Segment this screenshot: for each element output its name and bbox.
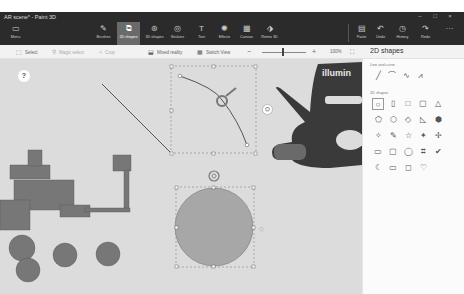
line-tool-icon[interactable]: ╱ (372, 70, 384, 82)
rounded-rect-shape-icon[interactable]: ▯ (387, 98, 399, 110)
magic-select-icon: ⚲ (52, 49, 56, 55)
hexagon-shape-icon[interactable]: ⬡ (387, 114, 399, 126)
select-button[interactable]: ⬚Select (16, 47, 38, 57)
right-triangle-shape-icon[interactable]: ◺ (417, 114, 429, 126)
diamond-shape-icon[interactable]: ◇ (402, 114, 414, 126)
fit-view-button[interactable]: ⛶ (350, 47, 357, 57)
wave-curve-tool-icon[interactable]: ∿ (400, 70, 412, 82)
zoom-level: 100% (330, 47, 342, 57)
zoom-slider-thumb[interactable] (282, 48, 284, 56)
tool-2d-shapes[interactable]: ⧉ 2D shapes (117, 22, 140, 45)
lines-section-label: Line and curve (370, 63, 395, 67)
canvas-drawing: illumin (0, 59, 362, 294)
tool-brushes[interactable]: ✎ Brushes (92, 22, 115, 45)
circle-shape-icon[interactable]: ○ (372, 98, 384, 110)
burst-shape-icon[interactable]: ✦ (417, 130, 429, 142)
2d-shapes-icon: ⧉ (117, 22, 140, 35)
history-icon: ◷ (391, 22, 414, 35)
heart-shape-icon[interactable]: ♡ (417, 162, 429, 174)
square-shape-icon[interactable]: □ (402, 98, 414, 110)
curve-tool-icon[interactable]: ⌒ (386, 70, 398, 82)
brush-icon: ✎ (92, 22, 115, 35)
triangle-shape-icon[interactable]: △ (432, 98, 444, 110)
3d-view-toggle-icon-faded[interactable]: ⛭ (259, 226, 264, 233)
toolbar-divider (348, 24, 349, 42)
mixed-reality-button[interactable]: ⬓Mixed reality (148, 47, 182, 57)
canvas-icon: ▦ (235, 22, 258, 35)
3d-view-toggle-icon[interactable]: ⛭ (262, 104, 273, 115)
remix-3d-icon: ⬗ (258, 22, 281, 35)
line-shape (102, 84, 170, 152)
svg-text:illumin: illumin (322, 68, 351, 78)
rounded-square-shape-icon[interactable]: ▢ (417, 98, 429, 110)
3d-shapes-icon: ⊛ (143, 22, 166, 35)
window-title: AR scene* - Paint 3D (4, 14, 56, 20)
shapes-section-label: 2D shapes (370, 91, 388, 95)
stickers-icon: ◎ (166, 22, 189, 35)
panel-title: 2D shapes (370, 47, 403, 54)
magic-select-button[interactable]: ⚲Magic select (52, 47, 84, 57)
more-button[interactable]: ··· (438, 22, 461, 45)
menu-button[interactable]: ▭ Menu (4, 22, 27, 45)
star-shape-icon[interactable]: ☆ (402, 130, 414, 142)
mixed-reality-icon: ⬓ (148, 49, 154, 55)
effects-icon: ✺ (213, 22, 236, 35)
octagon-shape-icon[interactable]: ⬢ (432, 114, 444, 126)
redo-icon: ↷ (414, 22, 437, 35)
text-icon: T (190, 22, 213, 35)
canvas-area[interactable]: illumin ? ⛭ ⛭ (0, 59, 362, 294)
speech-bubble-shape-icon[interactable]: ◻ (402, 162, 414, 174)
undo-icon: ↶ (369, 22, 392, 35)
help-button[interactable]: ? (18, 70, 30, 82)
zoom-slider[interactable] (262, 52, 306, 53)
redo-button[interactable]: ↷ Redo (414, 22, 437, 45)
switch-view-icon: ▦ (197, 49, 203, 55)
zoom-out-button[interactable]: − (247, 47, 251, 57)
more-icon: ··· (438, 22, 461, 35)
select-icon: ⬚ (16, 49, 22, 55)
polyline-tool-icon[interactable]: ⩘ (414, 70, 426, 82)
history-button[interactable]: ◷ History (391, 22, 414, 45)
check-shape-icon[interactable]: ✔ (432, 146, 444, 158)
pencil-shape-icon[interactable]: ✎ (387, 130, 399, 142)
tool-canvas[interactable]: ▦ Canvas (235, 22, 258, 45)
callout-rounded-shape-icon[interactable]: ▢ (387, 146, 399, 158)
curve-shape (180, 76, 247, 145)
pentagon-shape-icon[interactable]: ⬠ (372, 114, 384, 126)
crop-button[interactable]: ⌗Crop (99, 47, 115, 57)
moon-shape-icon[interactable]: ☾ (372, 162, 384, 174)
circle-shape (175, 188, 253, 266)
frame-shape-icon[interactable]: ⌗ (417, 146, 429, 158)
callout-oval-shape-icon[interactable]: ◯ (402, 146, 414, 158)
folder-icon: ▭ (4, 22, 27, 35)
crop-icon: ⌗ (99, 49, 102, 55)
tool-effects[interactable]: ✺ Effects (213, 22, 236, 45)
zoom-in-button[interactable]: + (312, 47, 316, 57)
tool-text[interactable]: T Text (190, 22, 213, 45)
close-button[interactable]: × (445, 13, 455, 19)
undo-button[interactable]: ↶ Undo (369, 22, 392, 45)
maximize-button[interactable]: □ (430, 13, 440, 19)
tool-stickers[interactable]: ◎ Stickers (166, 22, 189, 45)
star4-shape-icon[interactable]: ✧ (372, 130, 384, 142)
banner-shape-icon[interactable]: ▭ (387, 162, 399, 174)
minimize-button[interactable]: – (415, 13, 425, 19)
tool-remix-3d[interactable]: ⬗ Remix 3D (258, 22, 281, 45)
switch-view-button[interactable]: ▦Switch View (197, 47, 230, 57)
tool-3d-shapes[interactable]: ⊛ 3D shapes (143, 22, 166, 45)
fit-view-icon: ⛶ (350, 49, 354, 55)
cross-shape-icon[interactable]: ✢ (432, 130, 444, 142)
callout-rect-shape-icon[interactable]: ▭ (372, 146, 384, 158)
3d-model-rover (0, 150, 131, 282)
